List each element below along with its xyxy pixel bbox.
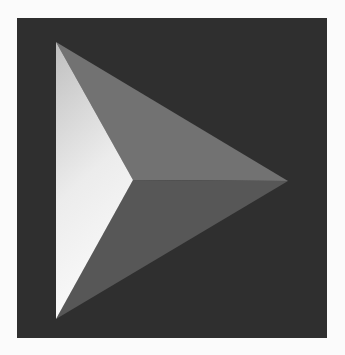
faceted-play-arrow-icon: [0, 0, 345, 355]
logo-canvas: [0, 0, 345, 355]
